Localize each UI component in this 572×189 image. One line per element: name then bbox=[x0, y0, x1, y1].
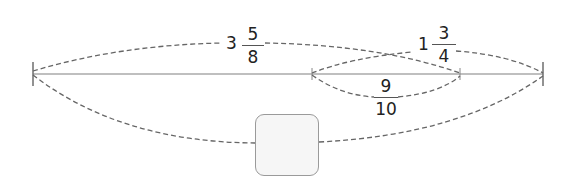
numerator: 3 bbox=[439, 24, 450, 42]
fraction-bar bbox=[374, 97, 398, 98]
denominator: 4 bbox=[439, 47, 450, 65]
denominator: 10 bbox=[375, 100, 397, 118]
fraction-nine-tenths: 9 10 bbox=[374, 77, 398, 118]
fraction-three-fourths: 3 4 bbox=[432, 24, 456, 65]
arc-one-three-fourths-left bbox=[312, 52, 412, 73]
fraction-bar bbox=[242, 45, 264, 46]
denominator: 8 bbox=[248, 48, 259, 66]
label-whole-one: 1 bbox=[418, 36, 429, 53]
arc-total-left bbox=[33, 75, 255, 143]
arc-nine-tenths-right bbox=[398, 76, 460, 97]
answer-box[interactable] bbox=[255, 114, 319, 176]
numerator: 5 bbox=[248, 25, 259, 43]
fraction-five-eighths: 5 8 bbox=[242, 25, 264, 66]
arc-one-three-fourths-right bbox=[456, 51, 543, 73]
label-whole-three: 3 bbox=[226, 35, 237, 52]
arc-nine-tenths-left bbox=[312, 75, 374, 97]
fraction-bar bbox=[432, 44, 456, 45]
arc-three-five-eighths-right bbox=[265, 43, 460, 73]
numerator: 9 bbox=[381, 77, 392, 95]
arc-total-right bbox=[319, 76, 543, 142]
arc-three-five-eighths-left bbox=[33, 43, 222, 71]
